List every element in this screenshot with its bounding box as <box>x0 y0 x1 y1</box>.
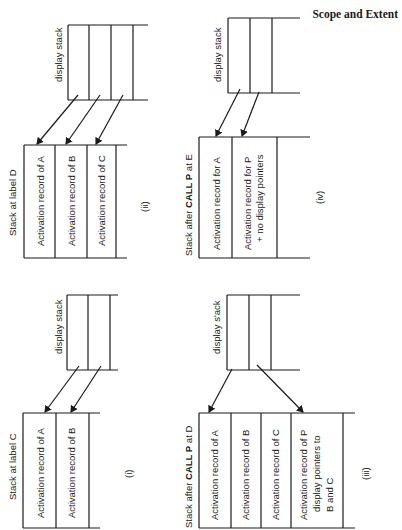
panel-i-caption: (i) <box>123 470 134 478</box>
panel-iv-display-label: display stack <box>212 28 223 82</box>
panel-iv-title: Stack after CALL P at E <box>183 154 194 256</box>
panel-ii-record-c: Activation record of C <box>96 155 107 246</box>
panel-ii-record-b: Activation record of B <box>66 156 77 246</box>
panel-iii-record-b: Activation record of B <box>240 430 251 520</box>
panel-iii-record-p-line2: display pointers to <box>311 435 322 512</box>
panel-i-record-b: Activation record of B <box>66 428 77 518</box>
panel-iii-caption: (iii) <box>360 467 371 480</box>
panel-i-record-a: Activation record of A <box>35 428 46 518</box>
panel-iii-record-c: Activation record of C <box>270 429 281 520</box>
panel-iv-record-p-line2: + no display pointers <box>254 155 265 242</box>
panel-ii-record-a: Activation record of A <box>35 156 46 246</box>
panel-ii-display-label: display stack <box>53 28 64 82</box>
panel-ii-title: Stack at label D <box>7 169 18 236</box>
panel-iv-caption: (iv) <box>314 191 325 204</box>
panel-iii-display-label: display s'ack <box>211 300 222 354</box>
display-stack-iii <box>227 295 300 370</box>
panel-iii-title-prefix: Stack after <box>183 480 194 528</box>
panel-iii-title: Stack after CALL P at D <box>183 426 194 528</box>
panel-iii-record-a: Activation record of A <box>209 430 220 520</box>
panel-iv-record-p-line1: Activation record for P <box>242 157 253 250</box>
panel-iv-title-suffix: at E <box>183 154 194 174</box>
panel-iii-title-bold: CALL P <box>183 446 194 480</box>
panel-iv-title-bold: CALL P <box>183 174 194 208</box>
panel-i-display-label: display stack <box>53 300 64 354</box>
display-stack-ii <box>68 25 148 100</box>
panel-iv-record-a: Activation record for A <box>211 157 222 250</box>
panel-iii-title-suffix: at D <box>183 426 194 446</box>
display-stack-iv <box>228 18 300 93</box>
panel-iii-record-p-line3: B and C <box>324 478 335 512</box>
panel-iii-record-p-line1: Activation record of P <box>298 430 309 520</box>
panel-iv-title-prefix: Stack after <box>183 208 194 256</box>
panel-i-title: Stack at label C <box>7 433 18 500</box>
display-stack-i <box>67 295 118 370</box>
panel-ii-caption: (ii) <box>139 201 150 212</box>
